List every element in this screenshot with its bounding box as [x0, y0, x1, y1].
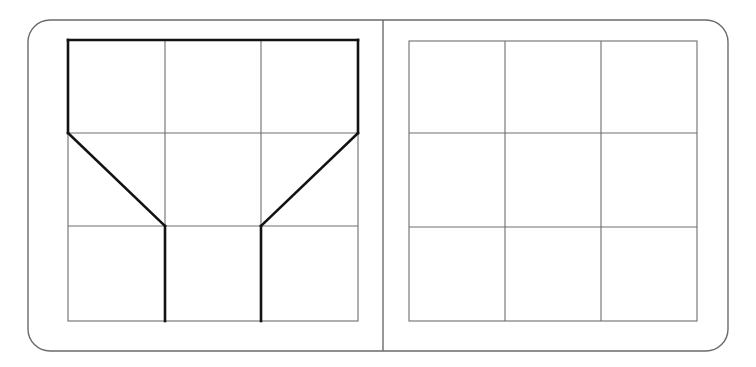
figure-canvas [0, 0, 756, 367]
two-panel-grid-figure [0, 0, 756, 367]
rounded-card [28, 20, 728, 351]
